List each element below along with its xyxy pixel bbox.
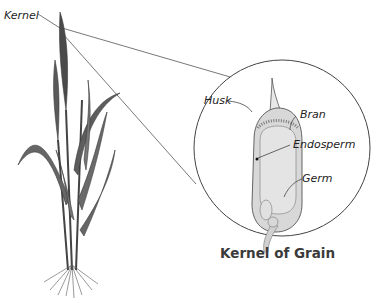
diagram-title: Kernel of Grain [220, 245, 335, 261]
bran-label: Bran [300, 108, 326, 121]
endosperm-label: Endosperm [293, 138, 355, 151]
husk-label: Husk [204, 94, 231, 107]
grain-plant-illustration [18, 12, 120, 298]
germ-label: Germ [302, 172, 333, 185]
plant-kernel-label: Kernel [4, 9, 39, 22]
grain-diagram: Kernel Husk Bran Endosperm Germ Kernel o… [0, 0, 377, 303]
